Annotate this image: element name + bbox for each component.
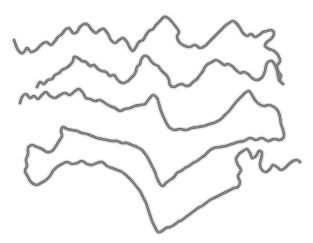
strand-3 [20, 89, 300, 232]
illustration-canvas: Wavy chain strands illustration [0, 0, 313, 243]
strand-2 [37, 56, 283, 87]
strands-svg [0, 0, 313, 243]
